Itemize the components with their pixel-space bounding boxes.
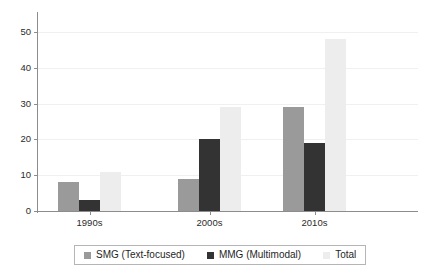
y-tick-label: 20: [2, 134, 31, 144]
x-tick-mark: [315, 211, 316, 215]
bar-group: [178, 14, 241, 211]
bar-group-bars: [178, 14, 241, 211]
legend-label-smg: SMG (Text-focused): [96, 250, 185, 260]
bar: [178, 179, 199, 211]
chart-legend: SMG (Text-focused) MMG (Multimodal) Tota…: [74, 245, 366, 265]
y-tick-mark: [34, 32, 38, 33]
plot-area: 50403020100 1990s2000s2010s: [38, 14, 418, 211]
bar-chart: 50403020100 1990s2000s2010s SMG (Text-fo…: [0, 0, 426, 277]
bar: [283, 107, 304, 211]
y-tick-mark: [34, 211, 38, 212]
bar: [100, 172, 121, 211]
y-tick-mark: [34, 139, 38, 140]
y-tick-mark: [34, 68, 38, 69]
x-tick-mark: [210, 211, 211, 215]
x-tick-label: 1990s: [50, 218, 130, 228]
bar-group-bars: [283, 14, 346, 211]
y-tick-label: 0: [2, 206, 31, 216]
y-tick-mark: [34, 175, 38, 176]
x-tick-label: 2000s: [170, 218, 250, 228]
legend-item-mmg: MMG (Multimodal): [207, 250, 301, 260]
bar-group-bars: [58, 14, 121, 211]
y-tick-label: 30: [2, 99, 31, 109]
bar: [325, 39, 346, 211]
y-tick-label: 50: [2, 27, 31, 37]
bar: [199, 139, 220, 211]
legend-swatch-icon-total: [323, 252, 330, 259]
legend-swatch-icon-mmg: [207, 252, 214, 259]
legend-item-smg: SMG (Text-focused): [84, 250, 185, 260]
legend-label-mmg: MMG (Multimodal): [219, 250, 301, 260]
x-tick-label: 2010s: [275, 218, 355, 228]
bar-group: [58, 14, 121, 211]
legend-label-total: Total: [335, 250, 356, 260]
legend-item-total: Total: [323, 250, 356, 260]
x-tick-mark: [90, 211, 91, 215]
bar: [220, 107, 241, 211]
x-axis-line: [37, 211, 418, 212]
legend-swatch-icon-smg: [84, 252, 91, 259]
y-tick-mark: [34, 104, 38, 105]
bar: [58, 182, 79, 211]
bar-group: [283, 14, 346, 211]
y-tick-label: 40: [2, 63, 31, 73]
bar: [304, 143, 325, 211]
plot-wrapper: 50403020100 1990s2000s2010s: [0, 0, 426, 240]
y-tick-label: 10: [2, 170, 31, 180]
bar: [79, 200, 100, 211]
